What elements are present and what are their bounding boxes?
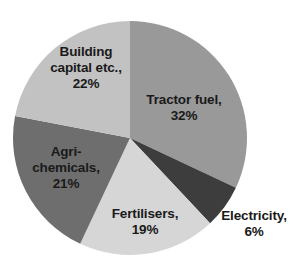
pie-chart: Tractor fuel, 32% Electricity, 6% Fertil… [0,0,301,267]
pie-slice-group [13,21,247,255]
pie-chart-canvas [0,0,301,267]
